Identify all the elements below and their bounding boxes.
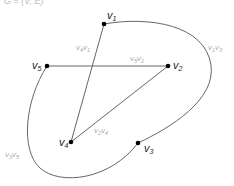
edge-v2v4 (71, 66, 168, 142)
edge-v1v3 (104, 21, 211, 143)
vertex-v2 (166, 64, 171, 69)
edge-label-v3v5: v3v5 (5, 150, 20, 160)
title-cut-text: G = (V, E) (4, 0, 44, 6)
vertex-v5 (45, 64, 50, 69)
vertex-label-v3: v3 (144, 142, 154, 155)
graph-diagram: G = (V, E) v4v1 v5v2 v1v3 v2v4 v3v5 v1 v… (0, 0, 234, 186)
vertex-label-v5: v5 (32, 59, 42, 72)
vertex-label-v2: v2 (173, 59, 183, 72)
vertex-v3 (136, 141, 141, 146)
edge-v3v5 (27, 66, 138, 178)
vertex-v4 (69, 140, 74, 145)
vertex-label-v1: v1 (107, 9, 117, 22)
edge-label-v1v3: v1v3 (208, 43, 223, 53)
vertex-label-v4: v4 (59, 136, 69, 149)
edge-label-v5v2: v5v2 (130, 54, 144, 64)
edge-label-v4v1: v4v1 (76, 43, 90, 53)
edge-label-v2v4: v2v4 (94, 126, 108, 136)
vertex-v1 (102, 22, 107, 27)
edge-v4v1 (71, 24, 104, 142)
